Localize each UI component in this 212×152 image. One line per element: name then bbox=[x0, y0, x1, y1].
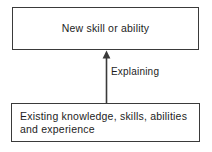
diagram-canvas: New skill or ability Explaining Existing… bbox=[0, 0, 212, 152]
arrow-label: Explaining bbox=[111, 66, 159, 78]
bottom-box-label: Existing knowledge, skills, abilities an… bbox=[12, 110, 193, 135]
arrow-head bbox=[103, 51, 111, 59]
bottom-box: Existing knowledge, skills, abilities an… bbox=[11, 103, 200, 142]
